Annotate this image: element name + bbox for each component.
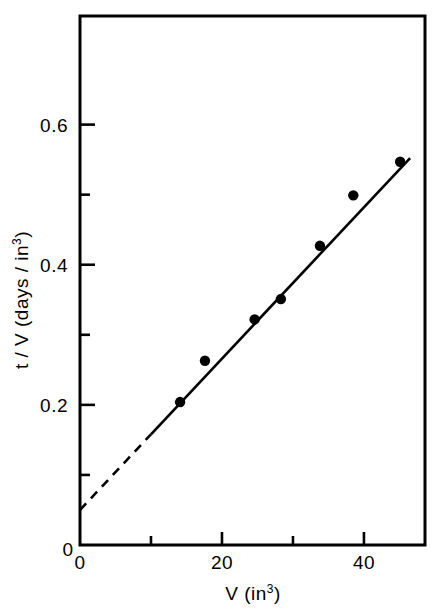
origin-tick-label: 0	[62, 539, 73, 560]
y-axis-title-close: )	[11, 231, 32, 238]
figure-background	[0, 0, 438, 615]
data-point	[249, 314, 259, 324]
y-tick-label: 0.4	[40, 255, 68, 276]
y-tick-label: 0.2	[40, 395, 68, 416]
x-tick-label: 40	[353, 552, 375, 573]
y-axis-title-exponent: 3	[10, 238, 24, 245]
x-tick-label: 20	[211, 552, 233, 573]
x-axis-title-exponent: 3	[267, 582, 274, 596]
chart-canvas: 02040 0.20.40.6 0 V (in3) t / V (days / …	[0, 0, 438, 615]
x-tick-label: 0	[74, 552, 85, 573]
data-point	[175, 397, 185, 407]
data-point	[395, 157, 405, 167]
x-axis-title-base: V (in	[225, 583, 267, 604]
data-point	[200, 356, 210, 366]
y-tick-label: 0.6	[40, 115, 68, 136]
data-point	[276, 294, 286, 304]
y-axis-title-base: t / V (days / in	[11, 245, 32, 369]
y-axis-title: t / V (days / in3)	[10, 231, 32, 369]
figure-container: 02040 0.20.40.6 0 V (in3) t / V (days / …	[0, 0, 438, 615]
x-axis-title-close: )	[274, 583, 281, 604]
data-point	[315, 241, 325, 251]
data-point	[348, 190, 358, 200]
